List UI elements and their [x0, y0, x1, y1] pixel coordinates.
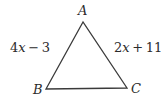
- side-label-ab: 4x − 3: [10, 41, 50, 54]
- triangle-outline: [46, 22, 127, 89]
- vertex-label-b: B: [33, 83, 43, 96]
- side-label-ac: 2x + 11: [114, 41, 162, 54]
- side-ab-variable: x: [18, 40, 25, 55]
- side-ab-constant: 3: [42, 40, 50, 55]
- side-ab-operator: −: [26, 40, 42, 55]
- side-ac-variable: x: [122, 40, 129, 55]
- side-ac-constant: 11: [146, 40, 163, 55]
- geometry-figure: A B C 4x − 3 2x + 11: [0, 0, 165, 103]
- vertex-label-a: A: [78, 4, 87, 17]
- vertex-label-c: C: [131, 82, 141, 95]
- side-ac-operator: +: [130, 40, 146, 55]
